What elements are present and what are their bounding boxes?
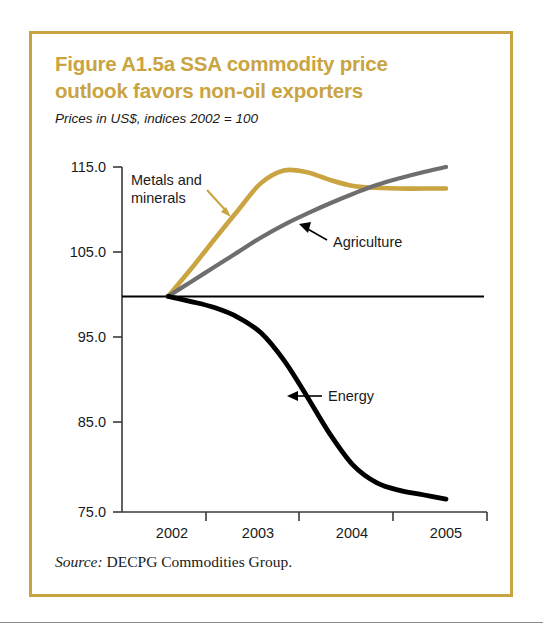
- figure-source: Source: DECPG Commodities Group.: [55, 552, 475, 572]
- figure-title-line-1: Figure A1.5a SSA commodity price: [55, 50, 475, 77]
- source-label: Source:: [55, 553, 103, 570]
- figure-bottom-rule: [0, 622, 543, 623]
- figure-container: Figure A1.5a SSA commodity price outlook…: [0, 0, 543, 642]
- figure-subtitle: Prices in US$, indices 2002 = 100: [55, 110, 475, 128]
- figure-title-line-2: outlook favors non-oil exporters: [55, 77, 475, 104]
- figure-title: Figure A1.5a SSA commodity price outlook…: [55, 50, 475, 104]
- source-text: DECPG Commodities Group.: [103, 553, 292, 570]
